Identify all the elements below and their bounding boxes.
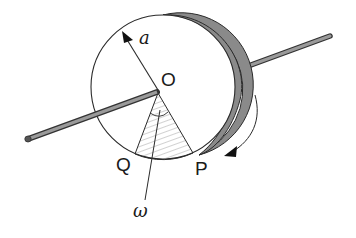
omega-label: ω <box>133 200 148 221</box>
point-label-P: P <box>195 158 208 179</box>
center-label-O: O <box>161 69 176 90</box>
rotating-disk-diagram: a O Q P ω <box>0 0 356 238</box>
point-label-Q: Q <box>116 154 131 175</box>
radius-label: a <box>139 27 150 48</box>
axle-rod-right <box>240 36 330 69</box>
